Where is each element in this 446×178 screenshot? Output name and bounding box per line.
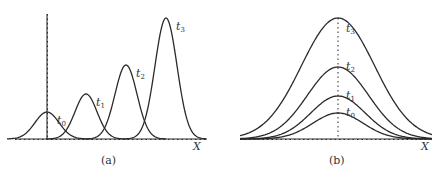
x-axis-label-b: X xyxy=(420,140,430,153)
curve-label-a-t3: t3 xyxy=(176,20,185,34)
x-axis-label-a: X xyxy=(192,140,202,153)
caption-b: (b) xyxy=(329,154,345,167)
curve-label-b-t0: t0 xyxy=(346,106,355,120)
panel-b: t0t1t2t3 X (b) xyxy=(240,18,432,167)
curve-b-t0 xyxy=(240,113,432,139)
curve-label-a-t1: t1 xyxy=(96,96,105,110)
curve-label-a-t2: t2 xyxy=(136,67,145,81)
curve-b-t1 xyxy=(240,96,432,139)
curve-label-a-t0: t0 xyxy=(57,114,66,128)
curve-label-b-t1: t1 xyxy=(346,89,355,103)
figure-canvas: t0t1t2t3 X (a) t0t1t2t3 X (b) xyxy=(0,0,446,178)
curve-b-t3 xyxy=(240,18,432,136)
curve-b-t2 xyxy=(240,67,432,139)
caption-a: (a) xyxy=(101,154,116,167)
curve-label-b-t2: t2 xyxy=(346,60,355,74)
panel-a: t0t1t2t3 X (a) xyxy=(7,14,207,167)
